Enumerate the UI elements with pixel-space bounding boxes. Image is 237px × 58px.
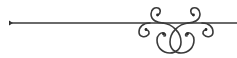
curl-dot <box>192 14 195 17</box>
curl-dot <box>156 14 159 17</box>
curl-dot <box>162 33 165 36</box>
curl-side-right <box>202 23 213 37</box>
curl-dot <box>205 28 208 31</box>
curl-side-left <box>139 23 150 37</box>
flourish-divider <box>0 0 237 58</box>
curl-dot <box>145 28 148 31</box>
curl-dot <box>186 33 189 36</box>
